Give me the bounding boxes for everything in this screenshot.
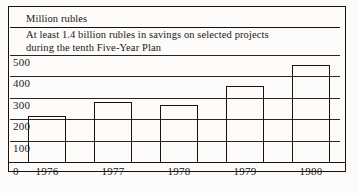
bar-1978	[160, 105, 198, 162]
bar-1976	[28, 116, 66, 162]
bar-1980	[292, 65, 330, 162]
y-axis-tick-label: 500	[13, 56, 30, 68]
bar-chart-figure: Million rubles At least 1.4 billion rubl…	[0, 0, 358, 193]
gridline-500	[10, 55, 340, 56]
y-axis-tick-label: 300	[13, 99, 30, 111]
caption-line-2: during the tenth Five-Year Plan	[10, 41, 344, 54]
gridline-300	[10, 98, 340, 99]
x-axis-tick-label: 1980	[300, 165, 323, 177]
x-axis-tick-label: 1979	[234, 165, 257, 177]
y-axis-zero-label: 0	[13, 165, 19, 177]
gridline-400	[10, 76, 340, 77]
caption-line-1: At least 1.4 billion rubles in savings o…	[10, 28, 344, 41]
x-axis-tick-label: 1978	[168, 165, 191, 177]
x-axis-baseline	[8, 162, 346, 163]
bar-1979	[226, 86, 264, 162]
chart-caption: At least 1.4 billion rubles in savings o…	[10, 28, 344, 54]
bar-1977	[94, 102, 132, 162]
unit-label-block: Million rubles	[10, 8, 344, 26]
x-axis-tick-label: 1976	[36, 165, 59, 177]
y-axis-tick-label: 400	[13, 77, 30, 89]
plot-area: 100200300400500	[10, 55, 344, 162]
y-axis-unit-label: Million rubles	[10, 8, 344, 26]
x-axis-tick-label: 1977	[102, 165, 125, 177]
